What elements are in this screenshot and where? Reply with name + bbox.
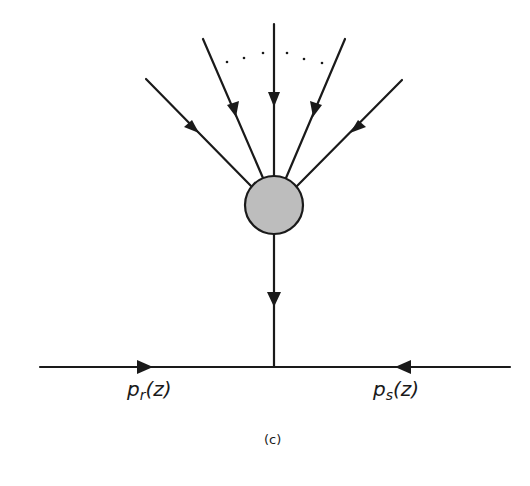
label-p-r-base: p (127, 377, 140, 401)
figure-caption: (c) (264, 432, 281, 447)
label-p-s-base: p (373, 377, 386, 401)
arrow-icon-baseline-left (137, 360, 153, 374)
label-p-s-sub: s (386, 387, 393, 403)
label-p-r: pr(z) (127, 377, 172, 403)
feynman-diagram (0, 0, 530, 486)
arrow-icon-line-1 (184, 120, 199, 133)
incoming-line-5 (296, 80, 402, 187)
label-p-s: ps(z) (373, 377, 419, 403)
arrow-icon-stem (267, 292, 281, 307)
arrow-icon-line-3 (268, 92, 280, 107)
label-p-r-arg: (z) (145, 377, 171, 401)
interaction-blob (245, 176, 303, 234)
arrow-icon-baseline-right (395, 360, 411, 374)
arrow-icon-line-5 (350, 120, 366, 133)
label-p-s-arg: (z) (393, 377, 419, 401)
arrow-icon-line-2 (227, 101, 239, 117)
